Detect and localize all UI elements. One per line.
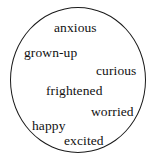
- diagram-canvas: anxious grown-up curious frightened worr…: [0, 0, 158, 161]
- word-grown-up: grown-up: [24, 46, 77, 60]
- word-excited: excited: [64, 134, 104, 148]
- word-worried: worried: [91, 105, 134, 119]
- word-happy: happy: [32, 119, 66, 133]
- word-frightened: frightened: [46, 84, 102, 98]
- word-anxious: anxious: [54, 21, 97, 35]
- word-curious: curious: [96, 64, 136, 78]
